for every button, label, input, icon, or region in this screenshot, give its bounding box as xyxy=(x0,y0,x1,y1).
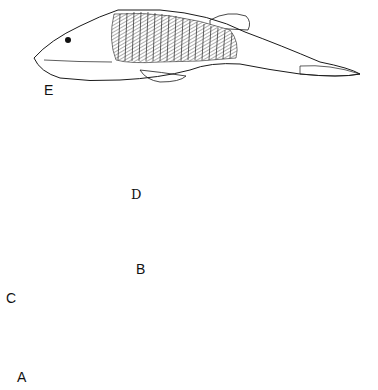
figure-plate xyxy=(0,0,378,390)
specimen-e xyxy=(34,10,360,82)
label-b: B xyxy=(136,262,145,276)
label-a: A xyxy=(17,370,26,384)
specimen-e-head-line xyxy=(44,60,112,62)
label-c: C xyxy=(6,291,16,305)
specimen-e-eye xyxy=(65,37,71,43)
label-e: E xyxy=(44,83,53,97)
label-d: D xyxy=(131,188,141,201)
